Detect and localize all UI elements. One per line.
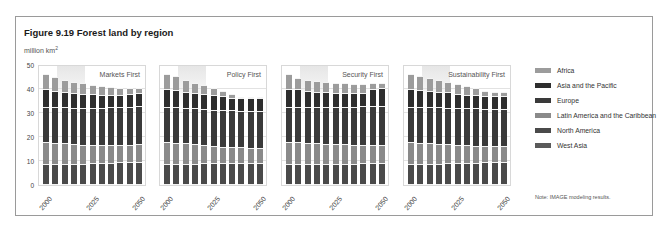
bar-segment bbox=[417, 143, 423, 165]
bar-segment bbox=[286, 89, 292, 107]
bar-segment bbox=[183, 184, 189, 185]
bar-segment bbox=[295, 107, 301, 143]
bar-segment bbox=[62, 92, 68, 107]
y-tick-label: 40 bbox=[20, 86, 34, 93]
y-tick-label: 20 bbox=[20, 134, 34, 141]
bar-segment bbox=[43, 184, 49, 185]
bar-segment bbox=[464, 184, 470, 185]
bar-segment bbox=[117, 95, 123, 107]
bar-segment bbox=[455, 84, 461, 94]
bar-segment bbox=[173, 90, 179, 107]
stacked-bar bbox=[173, 76, 179, 185]
note: Note: IMAGE modeling results. bbox=[535, 194, 611, 200]
bar-segment bbox=[201, 184, 207, 185]
bar-segment bbox=[501, 109, 507, 147]
bar-segment bbox=[90, 85, 96, 95]
bar-segment bbox=[333, 107, 339, 144]
chart-panel: Security First bbox=[281, 65, 389, 186]
bar-segment bbox=[379, 106, 385, 145]
bar-segment bbox=[342, 83, 348, 92]
bar-segment bbox=[173, 143, 179, 165]
legend-label: Europe bbox=[557, 97, 579, 104]
bar-segment bbox=[127, 162, 133, 184]
bar-segment bbox=[314, 81, 320, 92]
bar-segment bbox=[408, 164, 414, 184]
stacked-bar bbox=[323, 82, 329, 185]
stacked-bar bbox=[370, 83, 376, 185]
bar-segment bbox=[427, 91, 433, 107]
bar-segment bbox=[295, 78, 301, 90]
bar-segment bbox=[379, 184, 385, 185]
bar-segment bbox=[127, 107, 133, 145]
bar-segment bbox=[379, 88, 385, 106]
y-tick-label: 10 bbox=[20, 158, 34, 165]
bar-segment bbox=[136, 144, 142, 162]
stacked-bar bbox=[295, 78, 301, 185]
bar-segment bbox=[229, 184, 235, 185]
bar-segment bbox=[323, 107, 329, 144]
stacked-bar bbox=[52, 77, 58, 185]
bar-segment bbox=[445, 144, 451, 163]
bar-segment bbox=[229, 98, 235, 111]
bar-segment bbox=[305, 107, 311, 143]
stacked-bar bbox=[501, 92, 507, 185]
bar-segment bbox=[192, 93, 198, 108]
bar-segment bbox=[464, 163, 470, 184]
bar-segment bbox=[71, 108, 77, 144]
bar-segment bbox=[201, 94, 207, 109]
bar-segment bbox=[173, 184, 179, 185]
bar-segment bbox=[323, 82, 329, 92]
legend-label: Africa bbox=[557, 67, 574, 74]
bar-segment bbox=[248, 163, 254, 184]
stacked-bar bbox=[257, 97, 263, 185]
bar-segment bbox=[360, 106, 366, 144]
bar-segment bbox=[427, 184, 433, 185]
bar-segment bbox=[229, 110, 235, 147]
bar-segment bbox=[80, 164, 86, 184]
bar-segment bbox=[351, 93, 357, 107]
bar-segment bbox=[201, 109, 207, 145]
bar-segment bbox=[464, 95, 470, 108]
legend-item: Asia and the Pacific bbox=[535, 78, 656, 93]
bar-segment bbox=[473, 88, 479, 95]
bar-segment bbox=[211, 95, 217, 109]
bar-segment bbox=[52, 91, 58, 108]
bar-segment bbox=[408, 142, 414, 165]
bar-segment bbox=[43, 74, 49, 88]
legend-item: North America bbox=[535, 123, 656, 138]
bar-segment bbox=[351, 164, 357, 184]
stacked-bar bbox=[482, 91, 488, 185]
bar-segment bbox=[286, 74, 292, 88]
y-tick-label: 0 bbox=[20, 182, 34, 189]
bar-segment bbox=[164, 89, 170, 107]
bar-segment bbox=[473, 95, 479, 108]
stacked-bar bbox=[314, 81, 320, 185]
bar-segment bbox=[201, 163, 207, 184]
bar-segment bbox=[351, 145, 357, 164]
bar-segment bbox=[501, 184, 507, 185]
bar-segment bbox=[295, 184, 301, 185]
stacked-bar bbox=[136, 88, 142, 185]
stacked-bar bbox=[99, 86, 105, 185]
bar-segment bbox=[238, 163, 244, 184]
bar-segment bbox=[192, 184, 198, 185]
bar-segment bbox=[136, 93, 142, 106]
bar-segment bbox=[305, 143, 311, 164]
stacked-bar bbox=[229, 94, 235, 185]
bar-segment bbox=[220, 110, 226, 146]
bar-segment bbox=[360, 84, 366, 92]
y-tick-label: 30 bbox=[20, 110, 34, 117]
bar-segment bbox=[238, 184, 244, 185]
bar-segment bbox=[492, 96, 498, 109]
legend-swatch bbox=[535, 128, 551, 133]
stacked-bar bbox=[220, 91, 226, 185]
bar-segment bbox=[127, 184, 133, 185]
stacked-bar bbox=[211, 88, 217, 185]
bar-segment bbox=[408, 107, 414, 142]
bar-segment bbox=[229, 163, 235, 184]
bar-segment bbox=[136, 162, 142, 184]
stacked-bar bbox=[464, 86, 470, 185]
bar-segment bbox=[333, 83, 339, 93]
bar-segment bbox=[305, 164, 311, 184]
bar-segment bbox=[257, 111, 263, 148]
